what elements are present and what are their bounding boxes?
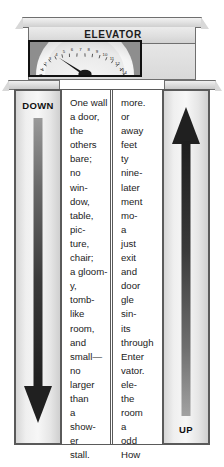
down-label: DOWN [15,100,61,111]
poem-line: room [121,406,165,420]
up-arrow-icon [163,98,209,416]
poem-line: er [70,434,114,448]
poem-line: bare; [70,152,114,166]
poem-line: exit [121,251,165,265]
poem-line: a [121,420,165,434]
poem-line: ele- [121,378,165,392]
poem-line: tomb- [70,293,114,307]
poem-line: ture, [70,237,114,251]
poem-line: mo- [121,209,165,223]
poem-line: nine- [121,166,165,180]
poem-line: dow, [70,195,114,209]
poem-line: stall. [70,448,114,462]
poem-line: and [70,336,114,350]
poem-lines-right: more. or away feet ty nine- later ment m… [121,96,165,462]
poem-line: the [70,124,114,138]
svg-text:11: 11 [110,56,115,61]
poem-lines-left: One wall a door, the others bare; no win… [70,96,114,462]
poem-column-right: more. or away feet ty nine- later ment m… [112,90,163,444]
elevator-sign-text: ELEVATOR [29,29,197,40]
poem-line: no [70,364,114,378]
poem-line: and [121,265,165,279]
poem-line: a [121,223,165,237]
elevator-illustration: ELEVATOR 1 2 3 4 5 6 7 8 [0,0,224,467]
poem-line: feet [121,138,165,152]
svg-text:10: 10 [103,52,108,57]
poem-line: a door, [70,110,114,124]
poem-line: sin- [121,307,165,321]
poem-line: through [121,336,165,350]
poem-line: more. [121,96,165,110]
up-label: UP [163,424,209,435]
poem-line: like [70,307,114,321]
poem-line: a gloom- [70,265,114,279]
poem-line: show- [70,420,114,434]
poem-line: One wall [70,96,114,110]
poem-line: a [70,406,114,420]
poem-line: y, [70,279,114,293]
poem-line: its [121,322,165,336]
poem-line: win- [70,181,114,195]
dial-face-icon: 1 2 3 4 5 6 7 8 9 10 11 12 13 14 [30,42,140,75]
poem-line: How [121,448,165,462]
poem-line: larger [70,378,114,392]
svg-text:14: 14 [122,70,127,75]
poem-line: vator. [121,364,165,378]
poem-line: away [121,124,165,138]
poem-line: others [70,138,114,152]
poem-line: chair; [70,251,114,265]
poem-line: Enter [121,350,165,364]
poem-line: odd [121,434,165,448]
poem-line: table, [70,209,114,223]
poem-line: room, [70,322,114,336]
poem-line: pic- [70,223,114,237]
poem-line: than [70,392,114,406]
poem-column-left: One wall a door, the others bare; no win… [61,90,112,444]
poem-line: gle [121,293,165,307]
poem-line: door [121,279,165,293]
poem-line: ment [121,195,165,209]
poem-line: no [70,166,114,180]
poem-line: just [121,237,165,251]
poem-line: ty [121,152,165,166]
down-arrow-icon [15,118,61,430]
poem-line: small— [70,350,114,364]
poem-line: later [121,181,165,195]
poem-line: the [121,392,165,406]
floor-indicator-dial: 1 2 3 4 5 6 7 8 9 10 11 12 13 14 [28,40,142,77]
poem-line: or [121,110,165,124]
